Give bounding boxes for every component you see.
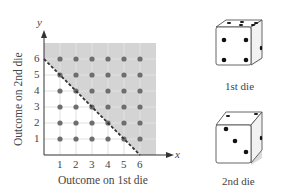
x-tick-4: 4 [105,158,111,170]
outcome-dot [121,72,126,77]
x-axis-title: Outcome on 1st die [58,174,148,186]
y-tick-1: 1 [34,132,40,144]
y-tick-3: 3 [34,100,40,112]
outcome-dot [73,72,78,77]
outcome-dot [137,120,142,125]
first-die-caption: 1st die [225,80,254,92]
outcome-dot [105,104,110,109]
first-die [216,20,262,66]
outcome-dot [89,136,94,141]
x-tick-3: 3 [89,158,95,170]
x-tick-2: 2 [73,158,79,170]
outcome-dot [137,104,142,109]
y-tick-2: 2 [34,116,40,128]
outcome-dot [105,72,110,77]
outcome-dot [57,120,62,125]
y-axis-title: Outcome on 2nd die [12,52,24,146]
outcome-dot [137,88,142,93]
outcome-dot [89,120,94,125]
outcome-dot [137,136,142,141]
outcome-dot [121,104,126,109]
outcome-dot [57,56,62,61]
y-tick-4: 4 [34,84,40,96]
second-die [216,112,262,165]
outcome-dot [89,56,94,61]
x-tick-5: 5 [121,158,127,170]
outcome-dot [89,72,94,77]
y-axis-symbol: y [37,16,42,28]
outcome-dot [105,88,110,93]
x-tick-1: 1 [57,158,63,170]
outcome-dot [73,56,78,61]
sample-space-plot [0,0,291,196]
outcome-dot [105,56,110,61]
second-die-caption: 2nd die [222,175,255,187]
outcome-dot [57,136,62,141]
outcome-dot [121,56,126,61]
outcome-dot [73,136,78,141]
outcome-dot [73,104,78,109]
outcome-dot [137,56,142,61]
x-axis-arrow-icon [166,152,174,158]
outcome-dot [137,72,142,77]
outcome-dot [105,136,110,141]
outcome-dot [73,120,78,125]
y-tick-6: 6 [34,52,40,64]
x-tick-6: 6 [137,158,143,170]
outcome-dot [89,88,94,93]
x-axis-symbol: x [175,148,180,160]
outcome-dot [121,120,126,125]
outcome-dot [57,88,62,93]
outcome-dot [57,104,62,109]
y-tick-5: 5 [34,68,40,80]
outcome-dot [121,88,126,93]
y-axis-arrow-icon [41,30,47,38]
